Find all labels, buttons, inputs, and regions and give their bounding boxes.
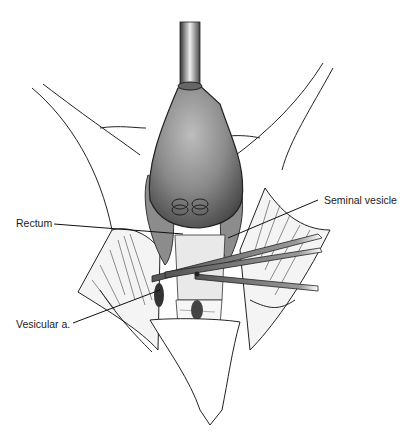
lower-flap bbox=[150, 319, 240, 425]
catheter bbox=[180, 22, 200, 86]
bladder bbox=[149, 84, 242, 228]
surgical-illustration bbox=[0, 0, 412, 431]
vesicular-artery bbox=[154, 283, 164, 307]
label-vesicular-artery: Vesicular a. bbox=[16, 318, 70, 330]
label-seminal-vesicle: Seminal vesicle bbox=[324, 194, 397, 206]
label-rectum: Rectum bbox=[16, 217, 52, 229]
catheter-base bbox=[178, 82, 202, 90]
